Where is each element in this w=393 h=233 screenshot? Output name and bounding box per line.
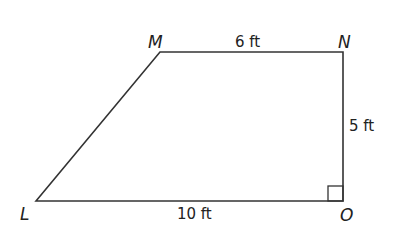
trapezoid-diagram: M N L O 6 ft 5 ft 10 ft — [0, 0, 393, 233]
side-label-lo: 10 ft — [177, 205, 212, 223]
vertex-label-m: M — [148, 32, 163, 52]
side-label-mn: 6 ft — [235, 33, 260, 51]
vertex-label-o: O — [340, 205, 353, 225]
side-label-no: 5 ft — [349, 117, 374, 135]
trapezoid-shape — [36, 52, 343, 201]
vertex-label-n: N — [338, 32, 351, 52]
vertex-label-l: L — [20, 204, 29, 224]
right-angle-marker — [328, 186, 343, 201]
